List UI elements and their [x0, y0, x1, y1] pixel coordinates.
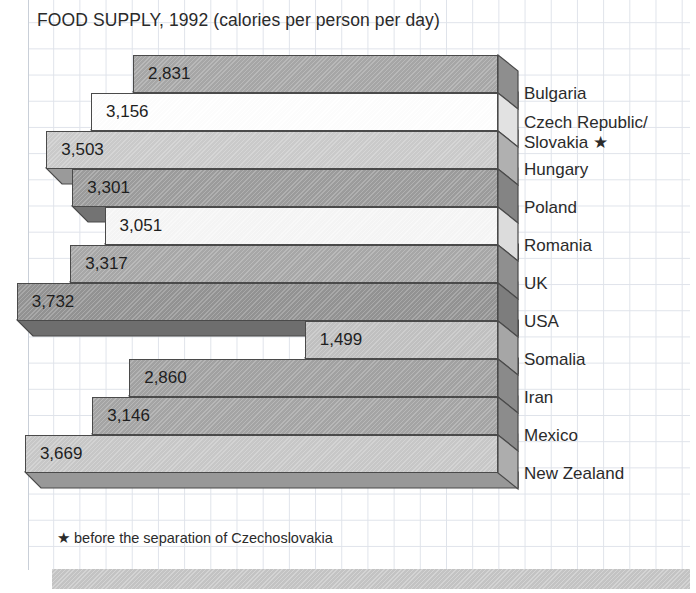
chart-footnote: ★ before the separation of Czechoslovaki… — [57, 530, 333, 546]
bar-value-label: 3,503 — [61, 140, 104, 160]
bar-texture — [18, 284, 497, 320]
bar-value-label: 2,831 — [148, 64, 191, 84]
bar-front-face[interactable]: 3,732 — [17, 283, 498, 321]
category-label: UK — [524, 274, 548, 294]
bar-side-face — [497, 434, 520, 491]
category-label: Somalia — [524, 350, 585, 370]
category-label-line: Czech Republic/ — [524, 113, 648, 133]
bar-front-face[interactable]: 3,317 — [70, 245, 498, 283]
bottom-gray-band — [52, 569, 696, 589]
bar-texture — [73, 170, 497, 206]
category-label-line: Slovakia ★ — [524, 133, 648, 153]
bar-value-label: 3,317 — [85, 254, 128, 274]
chart-canvas: FOOD SUPPLY, 1992 (calories per person p… — [0, 0, 696, 593]
bar-front-face[interactable]: 3,146 — [92, 397, 498, 435]
bar-front-face[interactable]: 2,860 — [129, 359, 498, 397]
bar-texture — [71, 246, 497, 282]
bar-value-label: 3,301 — [87, 178, 130, 198]
bar-value-label: 1,499 — [320, 330, 363, 350]
bar-texture — [106, 208, 497, 244]
bar-value-label: 3,156 — [106, 102, 149, 122]
bar-bottom-outline — [24, 471, 519, 489]
bar-value-label: 3,146 — [107, 406, 150, 426]
bar-texture — [47, 132, 497, 168]
right-margin-mask — [690, 0, 696, 593]
bar-front-face[interactable]: 2,831 — [133, 55, 498, 93]
category-label: Hungary — [524, 160, 588, 180]
category-label: USA — [524, 312, 559, 332]
category-label: Romania — [524, 236, 592, 256]
bar-value-label: 2,860 — [144, 368, 187, 388]
bar-texture — [93, 398, 497, 434]
category-label: Iran — [524, 388, 553, 408]
bar-front-face[interactable]: 3,051 — [105, 207, 498, 245]
category-label: Czech Republic/Slovakia ★ — [524, 113, 648, 153]
bar-texture — [26, 436, 497, 472]
bar-value-label: 3,732 — [32, 292, 75, 312]
category-label: Poland — [524, 198, 577, 218]
bar-front-face[interactable]: 3,669 — [25, 435, 498, 473]
bottom-band-texture — [52, 569, 696, 589]
bar-texture — [92, 94, 497, 130]
bar-value-label: 3,669 — [40, 444, 83, 464]
bar-front-face[interactable]: 1,499 — [305, 321, 498, 359]
bar-value-label: 3,051 — [120, 216, 163, 236]
category-label: New Zealand — [524, 464, 624, 484]
category-label: Bulgaria — [524, 84, 586, 104]
bar-front-face[interactable]: 3,156 — [91, 93, 498, 131]
bar-front-face[interactable]: 3,301 — [72, 169, 498, 207]
category-label: Mexico — [524, 426, 578, 446]
bar-front-face[interactable]: 3,503 — [46, 131, 498, 169]
